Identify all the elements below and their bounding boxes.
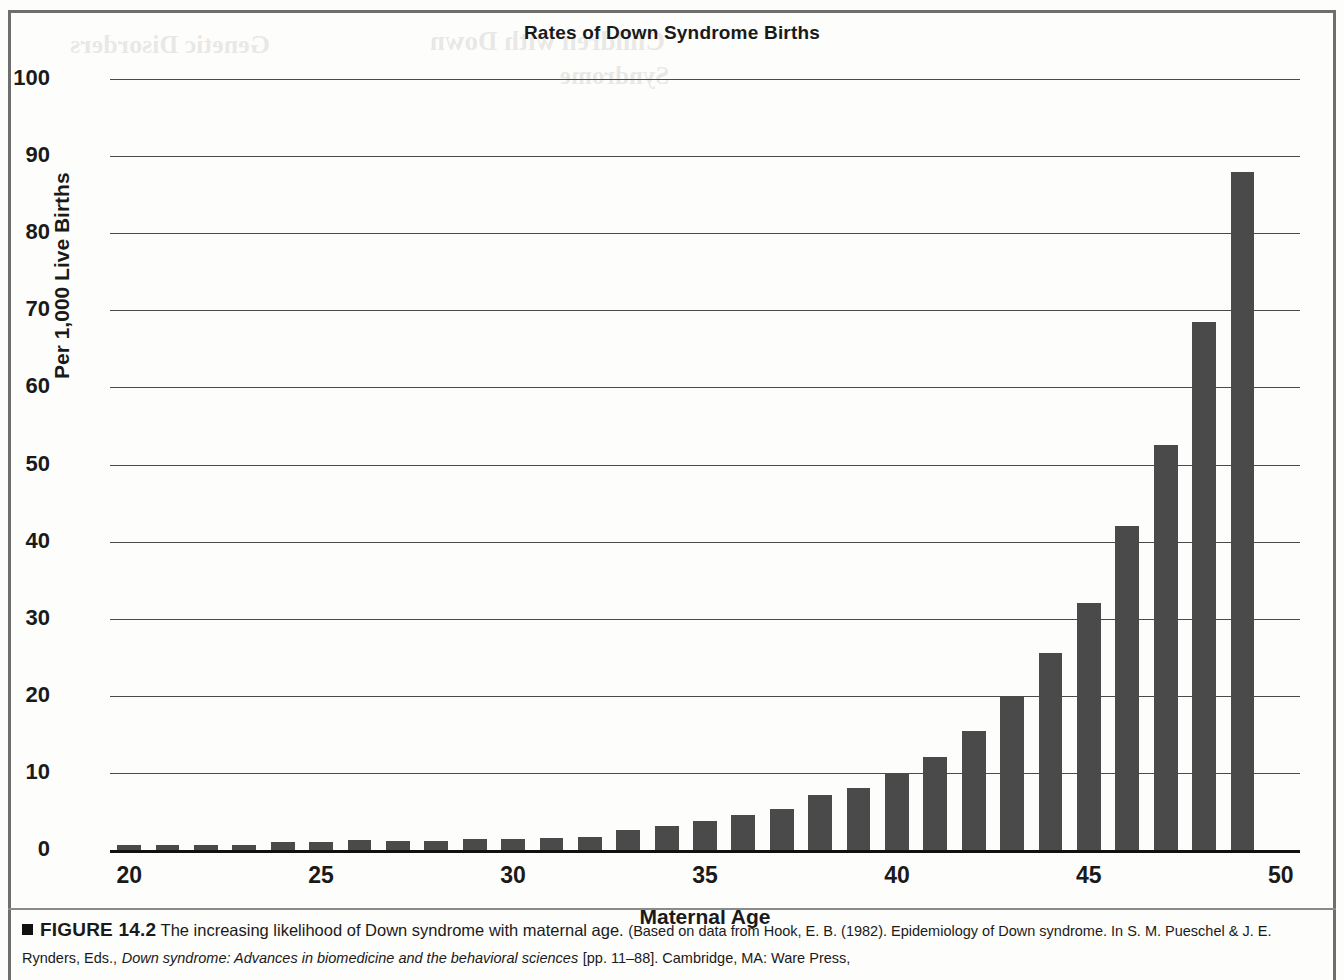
bar-age-25 bbox=[309, 842, 333, 850]
x-axis-tick-30: 30 bbox=[500, 862, 526, 889]
gridline-y-50 bbox=[110, 465, 1300, 466]
bar-age-21 bbox=[156, 845, 180, 850]
bar-age-29 bbox=[463, 839, 487, 850]
bar-age-49 bbox=[1231, 172, 1255, 850]
bar-age-45 bbox=[1077, 603, 1101, 850]
y-axis-tick-30: 30 bbox=[0, 605, 50, 631]
figure-source-title: Down syndrome: Advances in biomedicine a… bbox=[122, 950, 578, 966]
bar-age-40 bbox=[885, 774, 909, 850]
x-axis-tick-20: 20 bbox=[116, 862, 142, 889]
y-axis-tick-80: 80 bbox=[0, 219, 50, 245]
x-axis-line bbox=[110, 850, 1300, 853]
bar-age-20 bbox=[117, 845, 141, 850]
bar-age-41 bbox=[923, 757, 947, 850]
bar-age-28 bbox=[424, 841, 448, 850]
bar-age-48 bbox=[1192, 322, 1216, 850]
x-axis-tick-25: 25 bbox=[308, 862, 334, 889]
y-axis-tick-0: 0 bbox=[0, 836, 50, 862]
x-axis-tick-50: 50 bbox=[1268, 862, 1294, 889]
bar-age-27 bbox=[386, 841, 410, 850]
bar-age-44 bbox=[1039, 653, 1063, 850]
bar-age-22 bbox=[194, 845, 218, 850]
gridline-y-100 bbox=[110, 79, 1300, 80]
gridline-y-60 bbox=[110, 387, 1300, 388]
y-axis-tick-60: 60 bbox=[0, 373, 50, 399]
caption-divider bbox=[8, 908, 1336, 910]
y-axis-tick-100: 100 bbox=[0, 65, 50, 91]
bar-age-46 bbox=[1115, 526, 1139, 850]
caption-bullet-square bbox=[22, 924, 33, 935]
y-axis-tick-50: 50 bbox=[0, 451, 50, 477]
bar-age-24 bbox=[271, 842, 295, 850]
bar-age-31 bbox=[540, 838, 564, 850]
x-axis-tick-45: 45 bbox=[1076, 862, 1102, 889]
figure-caption: FIGURE 14.2 The increasing likelihood of… bbox=[22, 916, 1332, 970]
figure-number: FIGURE 14.2 bbox=[40, 919, 156, 940]
bar-age-39 bbox=[847, 788, 871, 850]
gridline-y-70 bbox=[110, 310, 1300, 311]
chart-plot-area: Per 1,000 Live Births Maternal Age 01020… bbox=[110, 79, 1300, 850]
y-axis-tick-90: 90 bbox=[0, 142, 50, 168]
y-axis-tick-20: 20 bbox=[0, 682, 50, 708]
bar-age-36 bbox=[731, 815, 755, 850]
figure-page: Genetic Disorders Children with Down Syn… bbox=[0, 0, 1344, 980]
bar-age-37 bbox=[770, 809, 794, 850]
x-axis-tick-40: 40 bbox=[884, 862, 910, 889]
bar-age-33 bbox=[616, 830, 640, 850]
y-axis-tick-40: 40 bbox=[0, 528, 50, 554]
frame-top-border bbox=[8, 10, 1336, 13]
gridline-y-90 bbox=[110, 156, 1300, 157]
bar-age-34 bbox=[655, 826, 679, 850]
y-axis-tick-10: 10 bbox=[0, 759, 50, 785]
bar-age-32 bbox=[578, 837, 602, 850]
bar-age-35 bbox=[693, 821, 717, 850]
bar-age-38 bbox=[808, 795, 832, 850]
figure-caption-text: The increasing likelihood of Down syndro… bbox=[161, 921, 624, 939]
bar-age-23 bbox=[232, 845, 256, 850]
bar-age-47 bbox=[1154, 445, 1178, 850]
bar-age-43 bbox=[1000, 697, 1024, 850]
frame-right-border bbox=[1333, 10, 1336, 980]
figure-source-part2: [pp. 11–88]. Cambridge, MA: Ware Press, bbox=[583, 950, 851, 966]
gridline-y-80 bbox=[110, 233, 1300, 234]
bar-age-42 bbox=[962, 731, 986, 850]
chart-title: Rates of Down Syndrome Births bbox=[0, 22, 1344, 44]
bar-age-26 bbox=[348, 840, 372, 850]
y-axis-label: Per 1,000 Live Births bbox=[50, 172, 74, 379]
bar-age-30 bbox=[501, 839, 525, 850]
x-axis-tick-35: 35 bbox=[692, 862, 718, 889]
y-axis-tick-70: 70 bbox=[0, 296, 50, 322]
